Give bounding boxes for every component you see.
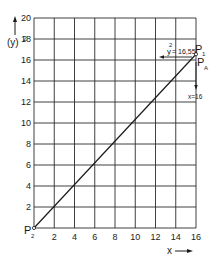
arrow-left-icon <box>159 55 164 58</box>
arrow-up-icon <box>13 16 17 22</box>
y-tick-label: 2 <box>26 202 31 212</box>
pa-label: P A <box>197 56 208 71</box>
y-tick-label: 6 <box>26 160 31 170</box>
p1-label: P 1 <box>195 43 206 57</box>
x-axis-label: x <box>167 245 193 256</box>
x-tick-labels: 246810121416 <box>52 232 201 242</box>
y-tick-labels: 2468101214161820 <box>21 13 31 212</box>
y-tick-label: 4 <box>26 181 31 191</box>
y-tick-label: 12 <box>21 97 31 107</box>
y-tick-label: 8 <box>26 139 31 149</box>
x-axis-label-text: x <box>167 245 172 256</box>
x-tick-label: 2 <box>52 232 57 242</box>
svg-text:A: A <box>204 65 208 71</box>
x-tick-label: 12 <box>150 232 160 242</box>
y-axis-label-base: (y) <box>7 37 19 48</box>
svg-text:2: 2 <box>31 233 35 239</box>
chart: 2468101214161820 246810121416 (y) 2 x y … <box>0 0 216 269</box>
y-tick-label: 14 <box>21 76 31 86</box>
y-tick-label: 16 <box>21 55 31 65</box>
x-tick-label: 16 <box>191 232 201 242</box>
y-axis-label-sup: 2 <box>23 35 27 42</box>
x-tick-label: 6 <box>92 232 97 242</box>
y-value-text: = 16,55 <box>172 48 196 55</box>
x-tick-label: 8 <box>112 232 117 242</box>
y-tick-label: 20 <box>21 13 31 23</box>
y-value-label: y <box>167 47 171 56</box>
p2-point <box>32 226 35 229</box>
x-tick-label: 4 <box>72 232 77 242</box>
y-tick-label: 10 <box>21 118 31 128</box>
x-tick-label: 14 <box>171 232 181 242</box>
arrow-right-icon <box>187 249 193 253</box>
x-value-label: x=16 <box>188 93 203 100</box>
arrow-down-icon <box>194 85 197 90</box>
y-value-annotation: y 2 = 16,55 <box>159 42 196 59</box>
x-tick-label: 10 <box>130 232 140 242</box>
